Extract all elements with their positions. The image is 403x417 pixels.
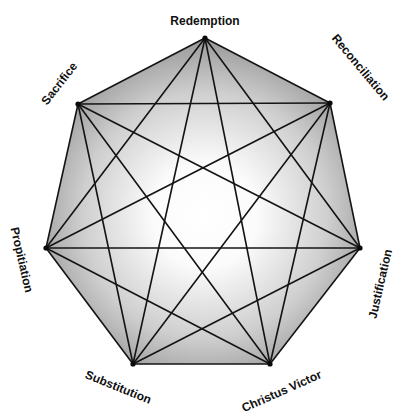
vertex-substitution [130, 361, 135, 366]
vertex-propitiation [43, 245, 48, 250]
vertex-redemption [202, 35, 207, 40]
vertex-christus_victor [267, 361, 272, 366]
atonement-heptagon-diagram: RedemptionReconciliationJustificationChr… [0, 0, 403, 417]
label-sacrifice: Sacrifice [38, 59, 80, 107]
label-christus_victor: Christus Victor [240, 367, 324, 415]
edge-reconciliation-sacrifice [78, 103, 330, 104]
vertex-sacrifice [75, 101, 80, 106]
label-reconciliation: Reconciliation [329, 32, 392, 104]
heptagon-gradient-fill [46, 38, 360, 364]
label-redemption: Redemption [170, 14, 239, 28]
label-justification: Justification [365, 248, 395, 320]
label-substitution: Substitution [83, 368, 153, 407]
vertex-justification [357, 245, 362, 250]
vertex-reconciliation [327, 100, 332, 105]
label-propitiation: Propitiation [7, 226, 36, 294]
